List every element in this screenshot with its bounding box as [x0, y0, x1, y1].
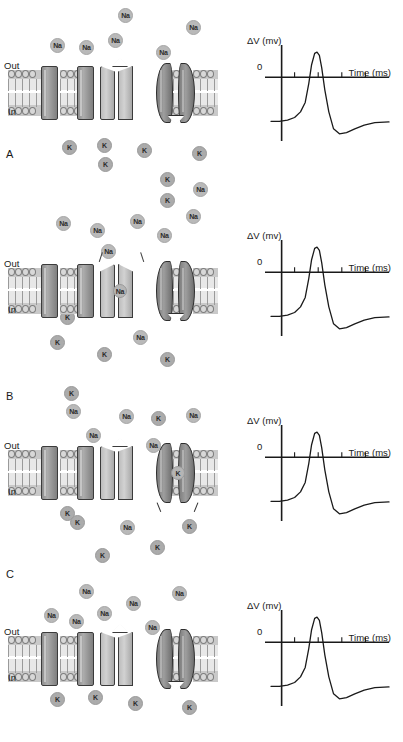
membrane-out-label: Out — [4, 626, 19, 637]
bilayer-head-row-inner — [193, 107, 218, 116]
ion-k: K — [182, 519, 197, 534]
phospholipid-head — [15, 450, 22, 458]
ion-k: K — [128, 696, 143, 711]
phospholipid-head — [22, 487, 29, 495]
phospholipid-head — [207, 450, 214, 458]
phospholipid-tails — [8, 277, 41, 305]
action-potential-trace — [271, 247, 389, 329]
ion-k: K — [97, 347, 112, 362]
bilayer-head-row-outer — [193, 268, 218, 277]
membrane: K — [8, 442, 218, 504]
bilayer-midline — [8, 471, 41, 473]
channel-ion: Na — [113, 284, 127, 298]
ion-na: Na — [44, 608, 59, 623]
phospholipid-head — [60, 450, 67, 458]
ion-k: K — [70, 515, 85, 530]
ion-k: K — [64, 386, 79, 401]
phospholipid-head — [67, 636, 74, 644]
potassium-channel-left-gate — [156, 629, 173, 689]
phospholipid-head — [29, 305, 36, 313]
potassium-channel-left-gate — [156, 63, 173, 123]
phospholipid-head — [22, 268, 29, 276]
bilayer-head-row-outer — [193, 70, 218, 79]
panel-a: NaNaNaNaNaNaKKKKKKKNaOutInΔV (mv)0Time (… — [0, 0, 403, 190]
membrane-protein — [77, 446, 94, 500]
ion-k: K — [160, 193, 175, 208]
sodium-gate-closed-peak — [112, 437, 128, 446]
ion-na: Na — [50, 38, 65, 53]
ion-k: K — [50, 692, 65, 707]
phospholipid-head — [15, 305, 22, 313]
potassium-gate-closed-notch — [168, 682, 184, 691]
phospholipid-head — [8, 636, 15, 644]
phospholipid-head — [193, 636, 200, 644]
phospholipid-head — [67, 305, 74, 313]
phospholipid-tails — [8, 79, 41, 107]
membrane-protein — [77, 632, 94, 686]
ion-k: K — [137, 143, 152, 158]
ion-na: Na — [120, 520, 135, 535]
panel-d: NaNaNaNaNaNaNaKKKKOutInΔV (mv)0Time (ms) — [0, 570, 403, 742]
phospholipid-head — [22, 305, 29, 313]
phospholipid-head — [207, 107, 214, 115]
bilayer-head-row-outer — [193, 636, 218, 645]
phospholipid-head — [29, 70, 36, 78]
sodium-channel-left-gate — [100, 632, 115, 686]
phospholipid-head — [67, 487, 74, 495]
phospholipid-head — [60, 636, 67, 644]
phospholipid-head — [193, 305, 200, 313]
phospholipid-head — [207, 636, 214, 644]
ion-k: K — [192, 146, 207, 161]
ion-na: Na — [90, 223, 105, 238]
ion-na: Na — [133, 330, 148, 345]
phospholipid-head — [8, 268, 15, 276]
ion-na: Na — [157, 228, 172, 243]
ion-na: Na — [119, 409, 134, 424]
phospholipid-head — [29, 673, 36, 681]
phospholipid-head — [207, 305, 214, 313]
ion-na: Na — [156, 45, 171, 60]
membrane-in-label: In — [8, 106, 16, 117]
graph-plot — [245, 35, 395, 145]
ion-k: K — [97, 138, 112, 153]
bilayer-head-row-outer — [193, 450, 218, 459]
lipid-bilayer-segment — [193, 450, 218, 496]
phospholipid-head — [193, 268, 200, 276]
phospholipid-head — [60, 268, 67, 276]
bilayer-midline — [193, 91, 218, 93]
action-potential-graph: ΔV (mv)0Time (ms) — [245, 600, 395, 710]
ion-k: K — [150, 540, 165, 555]
phospholipid-head — [60, 487, 67, 495]
ion-na: Na — [130, 214, 145, 229]
graph-plot — [245, 230, 395, 340]
phospholipid-head — [193, 487, 200, 495]
bilayer-midline — [193, 657, 218, 659]
membrane-in-label: In — [8, 304, 16, 315]
phospholipid-head — [193, 70, 200, 78]
ion-na: Na — [172, 586, 187, 601]
sodium-gate-closed-peak — [112, 57, 128, 66]
phospholipid-tails — [193, 645, 218, 673]
bilayer-midline — [8, 289, 41, 291]
phospholipid-head — [29, 636, 36, 644]
phospholipid-head — [67, 673, 74, 681]
phospholipid-head — [67, 107, 74, 115]
panel-b: KNaNaNaNaNaNaKNaKKKNaOutInΔV (mv)0Time (… — [0, 190, 403, 380]
phospholipid-tails — [193, 459, 218, 487]
bilayer-midline — [193, 471, 218, 473]
phospholipid-head — [193, 107, 200, 115]
phospholipid-head — [193, 673, 200, 681]
ion-na: Na — [97, 606, 112, 621]
potassium-gate-open-mark — [183, 498, 199, 512]
phospholipid-head — [67, 268, 74, 276]
sodium-channel-left-gate — [100, 66, 115, 120]
phospholipid-head — [22, 673, 29, 681]
sodium-gate-open-mark — [129, 252, 144, 266]
phospholipid-head — [60, 673, 67, 681]
sodium-gate-closed-peak — [112, 623, 128, 632]
ion-k: K — [98, 157, 113, 172]
membrane — [8, 62, 218, 124]
ion-k: K — [62, 140, 77, 155]
bilayer-head-row-inner — [193, 305, 218, 314]
phospholipid-head — [200, 268, 207, 276]
